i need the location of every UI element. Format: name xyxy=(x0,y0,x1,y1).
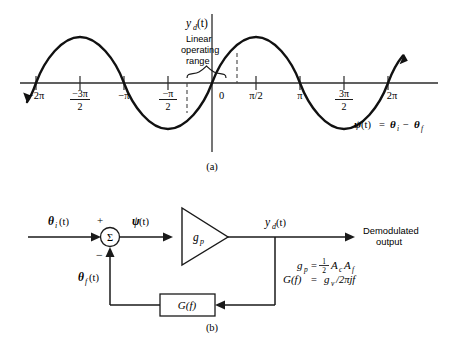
minus-sign-label: − xyxy=(96,248,103,262)
error-signal-label: ψ (t) xyxy=(132,215,149,228)
eq1-rhs-A2: A xyxy=(343,259,351,271)
caption-psi-tail: (t) xyxy=(361,119,371,131)
summing-junction-symbol: Σ xyxy=(107,232,113,243)
tick-label-3pi-2-num: 3π xyxy=(339,88,349,99)
tick-label-3pi-2-den: 2 xyxy=(342,101,347,112)
eq1-frac-num: 1 xyxy=(322,257,326,266)
feedback-label-sym: θ xyxy=(78,271,84,283)
caption-theta-i: θ xyxy=(390,118,396,130)
y-axis-label-sym: y xyxy=(185,17,192,30)
eq2-rhs-tail: /2πjf xyxy=(335,274,357,285)
output-label-tail: (t) xyxy=(276,217,286,229)
eq2-equals: = xyxy=(311,274,317,285)
caption-equals: = xyxy=(379,119,385,130)
tick-label--3pi-2-den: 2 xyxy=(78,101,83,112)
panel-a-caption: (a) xyxy=(206,161,218,173)
tick-label--pi-2-num: −π xyxy=(163,88,174,99)
plus-sign-label: + xyxy=(97,214,103,226)
tick-label--3pi-2-num: −3π xyxy=(72,88,88,99)
input-label-tail: (t) xyxy=(59,216,69,228)
feedback-block-label: G(f) xyxy=(178,299,197,312)
eq1-rhs-A1: A xyxy=(330,259,338,271)
tick-label-2pi: 2π xyxy=(387,90,398,101)
eq1-lhs: g xyxy=(297,259,303,271)
demodulated-output-line-1: Demodulated xyxy=(363,225,419,236)
eq1-equals: = xyxy=(311,260,317,271)
input-label-sym: θ xyxy=(48,215,54,227)
y-axis-label-tail: (t) xyxy=(197,17,208,30)
eq2-rhs-sym: g xyxy=(324,273,330,285)
eq2-lhs: G(f) xyxy=(283,273,302,286)
caption-minus: − xyxy=(403,119,409,130)
tick-label-pi: π xyxy=(297,90,303,101)
demodulated-output-line-2: output xyxy=(376,236,402,247)
input-label-sub: i xyxy=(55,221,57,230)
linear-range-line-2: operating xyxy=(181,45,219,55)
tick-label--pi-2-den: 2 xyxy=(166,101,171,112)
phase-locked-loop-figure: y d (t) Linear operating range −2π −3π 2… xyxy=(0,0,456,339)
linear-range-line-3: range xyxy=(186,56,210,66)
tick-label--pi: −π xyxy=(118,90,130,101)
amplifier-gain-sub: p xyxy=(199,237,204,246)
eq1-lhs-sub: p xyxy=(303,265,308,274)
error-label-tail: (t) xyxy=(139,216,149,228)
amplifier-gain-sym: g xyxy=(193,231,199,244)
feedback-label-tail: (t) xyxy=(89,272,99,284)
caption-theta-i-sub: i xyxy=(397,124,399,133)
panel-b-caption: (b) xyxy=(206,322,219,334)
linear-range-line-1: Linear xyxy=(186,34,212,44)
tick-label-0: 0 xyxy=(219,90,224,101)
tick-label-pi-2: π/2 xyxy=(249,90,262,101)
caption-theta-f: θ xyxy=(414,118,420,130)
figure-background xyxy=(0,0,456,339)
output-label-sym: y xyxy=(264,216,271,229)
tick-label--2pi: −2π xyxy=(28,90,45,101)
